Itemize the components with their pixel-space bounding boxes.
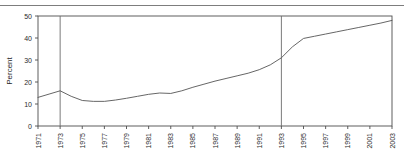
y-axis-label: Percent xyxy=(5,56,14,84)
x-axis-tick-label: 1993 xyxy=(278,133,285,149)
x-axis-tick-label: 1985 xyxy=(189,133,196,149)
y-axis-tick-label: 0 xyxy=(28,123,32,130)
y-axis-tick-label: 40 xyxy=(24,35,32,42)
y-axis-tick-label: 50 xyxy=(24,13,32,20)
y-axis-tick-label: 20 xyxy=(24,79,32,86)
x-axis-tick-label: 1995 xyxy=(300,133,307,149)
x-axis-tick-label: 1975 xyxy=(79,133,86,149)
x-axis-tick-label: 2003 xyxy=(389,133,396,149)
y-axis-tick-label: 10 xyxy=(24,101,32,108)
y-axis-tick-label: 30 xyxy=(24,57,32,64)
x-axis-tick-label: 1987 xyxy=(212,133,219,149)
x-axis-tick-label: 2001 xyxy=(366,133,373,149)
x-axis-tick-label: 1971 xyxy=(35,133,42,149)
data-series-line xyxy=(38,20,392,101)
x-axis-tick-label: 1973 xyxy=(57,133,64,149)
x-axis-tick-label: 1979 xyxy=(123,133,130,149)
chart-figure: 0102030405019711973197519771979198119831… xyxy=(0,0,404,162)
x-axis-tick-label: 1981 xyxy=(145,133,152,149)
x-axis-tick-label: 1989 xyxy=(234,133,241,149)
x-axis-tick-label: 1997 xyxy=(322,133,329,149)
x-axis-tick-label: 1983 xyxy=(167,133,174,149)
x-axis-tick-label: 1977 xyxy=(101,133,108,149)
line-chart: 0102030405019711973197519771979198119831… xyxy=(0,0,404,162)
x-axis-tick-label: 1991 xyxy=(256,133,263,149)
plot-frame xyxy=(38,16,392,126)
x-axis-tick-label: 1999 xyxy=(344,133,351,149)
